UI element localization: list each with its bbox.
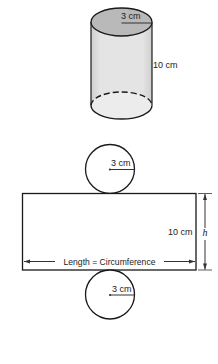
- net-bottom-circle: 3 cm: [86, 270, 135, 319]
- cylinder-net-diagram: 3 cm 10 cm 3 cm 10 cm Length = Circumfer…: [0, 0, 218, 364]
- net-rectangle: 10 cm Length = Circumference h: [23, 194, 213, 271]
- cylinder-radius-label: 3 cm: [121, 11, 141, 21]
- height-symbol: h: [203, 227, 208, 238]
- h-arrowhead-up: [203, 194, 207, 200]
- net-top-circle: 3 cm: [86, 145, 135, 194]
- length-label: Length = Circumference: [64, 257, 156, 267]
- rectangle-height-label: 10 cm: [168, 227, 193, 237]
- bottom-circle-radius-label: 3 cm: [112, 284, 132, 294]
- cylinder-height-label: 10 cm: [153, 60, 178, 70]
- h-arrowhead-down: [203, 264, 207, 270]
- cylinder-3d: 3 cm 10 cm: [91, 8, 178, 119]
- top-circle-radius-label: 3 cm: [111, 158, 131, 168]
